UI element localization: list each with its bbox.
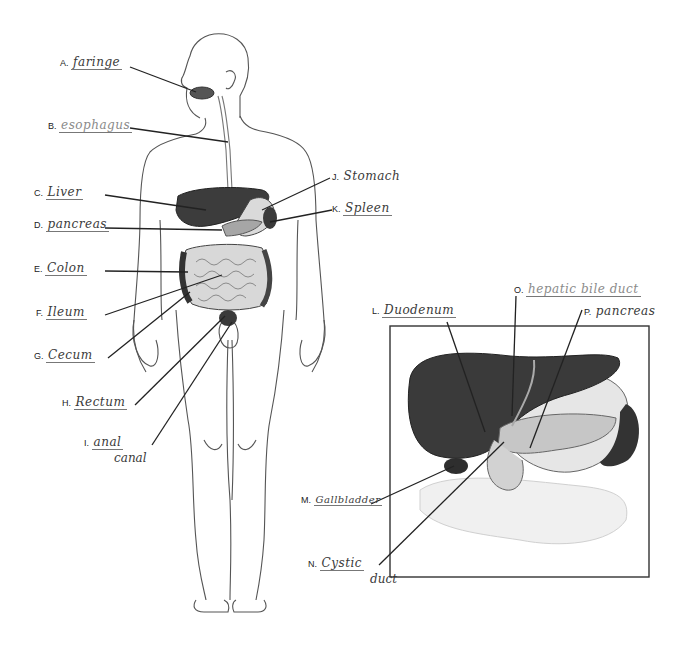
answer-esophagus[interactable]: esophagus	[59, 118, 132, 133]
label-b: B. esophagus	[48, 118, 132, 132]
label-c: C. Liver	[34, 185, 83, 199]
label-n: N. Cystic duct	[308, 556, 364, 570]
label-h: H. Rectum	[62, 395, 127, 409]
label-f: F. Ileum	[36, 305, 87, 319]
label-e: E. Colon	[34, 261, 87, 275]
label-l: L. Duodenum	[372, 303, 456, 317]
answer-hepatic-bile-duct[interactable]: hepatic bile duct	[526, 282, 641, 297]
label-i: I. anal canal	[84, 435, 123, 449]
label-letter: E.	[34, 264, 43, 274]
label-letter: C.	[34, 188, 43, 198]
label-j: J. Stomach	[332, 169, 402, 183]
label-o: O. hepatic bile duct	[514, 282, 641, 296]
label-d: D. pancreas	[34, 217, 109, 231]
label-letter: H.	[62, 398, 71, 408]
label-letter: I.	[84, 438, 89, 448]
label-letter: N.	[308, 559, 317, 569]
label-letter: G.	[34, 351, 44, 361]
answer-rectum[interactable]: Rectum	[74, 395, 128, 410]
answer-anal[interactable]: anal	[92, 435, 124, 450]
label-letter: A.	[60, 58, 69, 68]
answer-canal: canal	[114, 451, 147, 465]
label-p: P. pancreas	[584, 304, 657, 318]
answer-pancreas[interactable]: pancreas	[46, 217, 109, 232]
answer-liver[interactable]: Liver	[46, 185, 84, 200]
label-k: K. Spleen	[332, 201, 392, 215]
label-letter: O.	[514, 285, 524, 295]
label-a: A. faringe	[60, 55, 122, 69]
answer-duodenum[interactable]: Duodenum	[382, 303, 456, 318]
answer-duct: duct	[370, 572, 397, 586]
label-letter: L.	[372, 306, 380, 316]
answer-spleen[interactable]: Spleen	[343, 201, 392, 216]
answer-cystic[interactable]: Cystic	[320, 556, 365, 571]
answer-pharynx[interactable]: faringe	[71, 55, 122, 70]
answer-gallbladder[interactable]: Gallbladder	[314, 494, 383, 506]
label-letter: J.	[332, 172, 339, 182]
label-letter: M.	[301, 495, 311, 505]
label-letter: K.	[332, 204, 341, 214]
label-letter: F.	[36, 308, 43, 318]
label-letter: D.	[34, 220, 43, 230]
body-illustration	[0, 0, 697, 646]
answer-colon[interactable]: Colon	[45, 261, 87, 276]
answer-pancreas-inset[interactable]: pancreas	[594, 304, 657, 318]
digestive-worksheet: A. faringe B. esophagus C. Liver D. panc…	[0, 0, 697, 646]
label-g: G. Cecum	[34, 348, 95, 362]
answer-cecum[interactable]: Cecum	[46, 348, 95, 363]
label-letter: P.	[584, 307, 591, 317]
answer-ileum[interactable]: Ileum	[46, 305, 87, 320]
answer-stomach[interactable]: Stomach	[342, 169, 403, 183]
label-m: M. Gallbladder	[301, 494, 382, 505]
label-letter: B.	[48, 121, 57, 131]
